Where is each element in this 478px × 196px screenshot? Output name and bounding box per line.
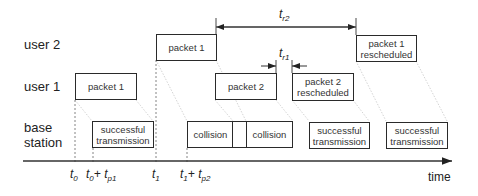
- base-successful-transmission-box-3: successfultransmission: [386, 122, 448, 149]
- box-label: successfultransmission: [313, 125, 366, 147]
- box-label: packet 1rescheduled: [361, 38, 413, 60]
- interval-label-tr2: tr2: [279, 7, 289, 23]
- axis-label-time: time: [428, 170, 451, 184]
- box-label: packet 2: [228, 81, 264, 92]
- base-successful-transmission-box-1: successfultransmission: [92, 121, 154, 148]
- tick-t1-plus-tp2: t1+ tp2: [180, 167, 210, 183]
- base-collision-overlap-divider: [232, 121, 247, 148]
- user2-packet-1-rescheduled-box: packet 1rescheduled: [356, 35, 417, 62]
- box-label: successfultransmission: [96, 124, 149, 146]
- tick-t1: t1: [152, 167, 160, 183]
- user2-packet-1-box: packet 1: [156, 34, 217, 61]
- user1-packet-2-box: packet 2: [215, 73, 277, 100]
- box-label: packet 1: [169, 42, 205, 53]
- interval-label-tr1: tr1: [279, 46, 289, 62]
- box-label: packet 2rescheduled: [297, 76, 349, 98]
- base-collision-box-2: collision: [246, 121, 293, 148]
- base-collision-box-1: collision: [187, 121, 234, 148]
- tick-t0: t0: [70, 167, 78, 183]
- user1-packet-2-rescheduled-box: packet 2rescheduled: [292, 73, 354, 101]
- box-label: packet 1: [88, 81, 124, 92]
- base-successful-transmission-box-2: successfultransmission: [309, 122, 370, 149]
- box-label: collision: [253, 129, 287, 140]
- user1-packet-1-box: packet 1: [75, 73, 137, 100]
- tick-t0-plus-tp1: t0+ tp1: [86, 167, 116, 183]
- box-label: collision: [194, 129, 228, 140]
- box-label: successfultransmission: [390, 125, 443, 147]
